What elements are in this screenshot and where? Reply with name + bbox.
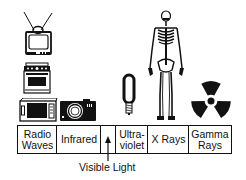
microwave-icon — [18, 98, 58, 123]
stove-icon — [22, 62, 52, 94]
band-x-rays: X Rays — [147, 125, 189, 154]
band-infrared: Infrared — [56, 125, 101, 154]
television-icon — [22, 10, 54, 58]
band-label: X Rays — [152, 134, 186, 145]
band-label-line2: violet — [119, 140, 145, 151]
band-radio-waves: RadioWaves — [17, 125, 57, 154]
up-arrow-icon — [104, 136, 112, 162]
band-label-line1: Gamma — [191, 129, 228, 140]
band-label-line1: Radio — [22, 129, 54, 140]
band-label-line2: Waves — [22, 140, 54, 151]
band-label-line2: Rays — [191, 140, 228, 151]
band-label: Infrared — [61, 134, 97, 145]
radiation-symbol-icon — [190, 80, 232, 122]
band-ultraviolet: Ultra-violet — [115, 125, 148, 154]
band-gamma-rays: GammaRays — [188, 125, 232, 154]
visible-light-label: Visible Light — [79, 161, 135, 173]
camera-icon — [59, 96, 97, 122]
skeleton-icon — [147, 10, 185, 122]
band-label-line1: Ultra- — [119, 129, 145, 140]
blacklight-bulb-icon — [121, 72, 137, 116]
